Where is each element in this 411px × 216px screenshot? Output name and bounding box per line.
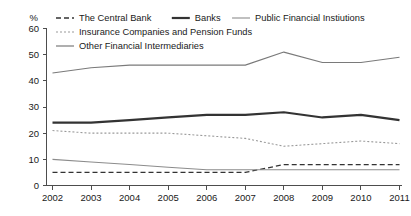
legend-label-1: Banks: [195, 13, 221, 23]
series-lines: [53, 52, 400, 172]
legend-label-3: Insurance Companies and Pension Funds: [79, 27, 252, 37]
chart-container: % The Central BankBanksPublic Financial …: [0, 0, 411, 216]
x-tick-label: 2003: [80, 192, 101, 203]
y-tick-label: 20: [28, 128, 39, 139]
series-line-2: [53, 159, 400, 169]
x-tick-label: 2004: [119, 192, 140, 203]
chart-legend: The Central BankBanksPublic Financial In…: [56, 13, 365, 51]
x-tick-label: 2011: [389, 192, 409, 203]
legend-label-0: The Central Bank: [79, 13, 152, 23]
x-tick-label: 2008: [273, 192, 294, 203]
series-line-0: [53, 165, 400, 173]
y-tick-label: 0: [34, 180, 39, 191]
x-tick-label: 2007: [235, 192, 256, 203]
x-tick-label: 2002: [42, 192, 63, 203]
y-tick-label: 60: [28, 23, 39, 34]
x-tick-label: 2006: [196, 192, 217, 203]
series-line-3: [53, 131, 400, 147]
legend-label-4: Other Financial Intermediaries: [79, 41, 204, 51]
x-tick-label: 2005: [158, 192, 179, 203]
y-axis-ticks: 0102030405060: [28, 23, 46, 191]
series-line-4: [53, 52, 400, 73]
y-axis-unit-label: %: [30, 12, 39, 23]
axis-lines: [47, 29, 402, 186]
x-tick-label: 2009: [312, 192, 333, 203]
line-chart: % The Central BankBanksPublic Financial …: [0, 0, 411, 216]
y-tick-label: 10: [28, 154, 39, 165]
y-tick-label: 30: [28, 101, 39, 112]
x-tick-label: 2010: [350, 192, 371, 203]
y-tick-label: 40: [28, 75, 39, 86]
y-tick-label: 50: [28, 49, 39, 60]
series-line-1: [53, 112, 400, 122]
legend-label-2: Public Financial Instiutions: [255, 13, 365, 23]
x-axis-ticks: 2002200320042005200620072008200920102011: [42, 186, 410, 204]
